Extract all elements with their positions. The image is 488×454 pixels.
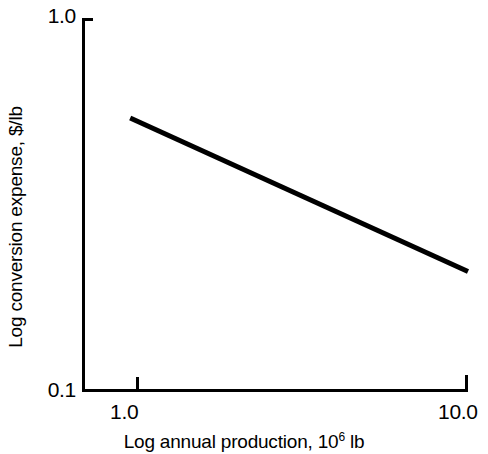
x-axis-title: Log annual production, 106 lb <box>0 430 488 454</box>
data-series-layer <box>82 18 468 392</box>
x-axis-tick-label-10.0: 10.0 <box>438 400 478 424</box>
y-axis-title: Log conversion expense, $/lb <box>2 0 30 454</box>
y-axis-tick-label-1.0: 1.0 <box>48 4 76 28</box>
x-axis-title-exponent: 6 <box>338 430 344 444</box>
chart-figure: Log conversion expense, $/lb 1.0 0.1 1.0… <box>0 0 488 454</box>
plot-area <box>82 18 468 392</box>
x-axis-title-lead: Log annual production, 10 <box>124 431 339 452</box>
x-axis-tick-label-1.0: 1.0 <box>110 400 138 424</box>
data-series-line <box>130 118 468 271</box>
y-axis-tick-label-0.1: 0.1 <box>48 378 76 402</box>
x-axis-title-trail: lb <box>345 431 364 452</box>
